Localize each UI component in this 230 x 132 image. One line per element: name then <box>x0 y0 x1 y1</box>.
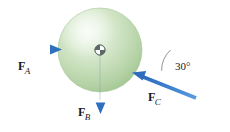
force-label-fc: FC <box>148 88 161 107</box>
free-body-diagram: FA FB FC 30° <box>0 0 230 132</box>
force-arrow-fa <box>12 44 62 54</box>
angle-arc-30deg <box>162 50 171 71</box>
force-subscript-fc: C <box>155 97 161 107</box>
force-label-fa: FA <box>18 57 30 76</box>
force-arrow-fc <box>132 71 196 98</box>
force-subscript-fa: A <box>25 66 31 76</box>
diagram-canvas <box>0 0 230 132</box>
angle-label-30deg: 30° <box>175 61 190 72</box>
force-label-fb: FB <box>78 103 90 122</box>
force-subscript-fb: B <box>85 112 91 122</box>
